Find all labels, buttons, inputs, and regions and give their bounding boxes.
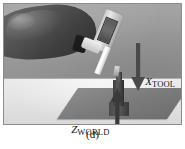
- gloved-hand: [6, 12, 36, 32]
- photograph: [3, 3, 182, 125]
- workpiece-body: [113, 80, 125, 106]
- x-tool-axis-label: XTOOL: [145, 72, 175, 88]
- figure-caption: (d): [0, 128, 185, 140]
- x-tool-subscript: TOOL: [152, 79, 175, 89]
- figure-container: XTOOL ZWORLD (d): [0, 0, 185, 149]
- x-tool-symbol: X: [145, 75, 152, 87]
